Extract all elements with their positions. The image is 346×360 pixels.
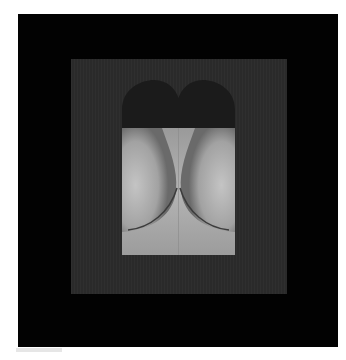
artwork-image [122, 80, 235, 255]
caption-strip [16, 348, 62, 352]
